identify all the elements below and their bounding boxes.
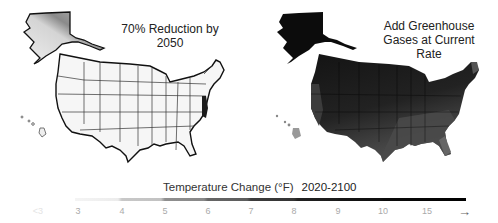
temperature-legend: Temperature Change (°F)2020-2100 <3 3 4 … — [0, 178, 498, 223]
legend-tick: 5 — [162, 206, 167, 216]
legend-tick: 10 — [378, 206, 388, 216]
map-title-line-2: Gases at Current Rate — [369, 33, 489, 61]
map-panel-current-rate: Add Greenhouse Gases at Current Rate — [249, 0, 498, 180]
right-arrow-icon: → — [458, 204, 471, 219]
alaska-shape — [277, 12, 357, 64]
map-panel-reduction: 70% Reduction by 2050 — [0, 0, 249, 180]
legend-tick: 8 — [291, 206, 296, 216]
map-title-reduction: 70% Reduction by 2050 — [110, 22, 230, 50]
legend-title-text: Temperature Change (°F) — [163, 181, 294, 193]
legend-tick: 9 — [335, 206, 340, 216]
legend-tick: 3 — [75, 206, 80, 216]
map-title-line-1: Add Greenhouse — [369, 19, 489, 33]
legend-tick: 6 — [205, 206, 210, 216]
map-title-current-rate: Add Greenhouse Gases at Current Rate — [369, 19, 489, 61]
legend-period: 2020-2100 — [302, 181, 357, 193]
legend-tick-labels: <3 3 4 5 6 7 8 9 10 15 — [0, 206, 498, 220]
legend-tick: <3 — [33, 206, 43, 216]
legend-title: Temperature Change (°F)2020-2100 — [163, 181, 357, 193]
legend-tick: 15 — [422, 206, 432, 216]
legend-tick: 7 — [248, 206, 253, 216]
legend-tick: 4 — [119, 206, 124, 216]
hawaii-islands — [276, 115, 301, 139]
contiguous-us-shape — [56, 54, 224, 162]
legend-color-bar — [75, 198, 466, 201]
hawaii-islands — [21, 116, 46, 137]
